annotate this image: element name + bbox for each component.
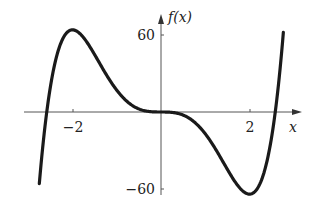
y-axis-label: f(x) — [167, 9, 192, 25]
x-tick-label-2: 2 — [246, 119, 255, 135]
function-plot: 60 −60 −2 2 x f(x) — [0, 0, 310, 209]
y-tick-label-60: 60 — [137, 27, 155, 43]
x-tick-label-neg2: −2 — [63, 119, 84, 135]
y-axis-arrow-icon — [158, 14, 164, 24]
x-axis-arrow-icon — [292, 109, 302, 115]
y-tick-label-neg60: −60 — [125, 181, 155, 197]
x-axis-label: x — [289, 119, 297, 135]
